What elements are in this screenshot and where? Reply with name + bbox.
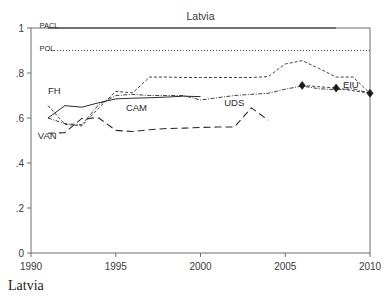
y-tick-label: .4 bbox=[16, 158, 25, 169]
series-marker-eiu bbox=[333, 84, 339, 92]
plot-frame bbox=[31, 28, 370, 253]
x-tick-label: 2000 bbox=[189, 261, 212, 272]
x-tick-label: 1990 bbox=[20, 261, 43, 272]
series-marker-eiu bbox=[367, 89, 373, 97]
chart-title: Latvia bbox=[186, 10, 214, 22]
figure-caption: Latvia bbox=[8, 278, 44, 294]
series-label-pacl: PACL bbox=[39, 21, 58, 30]
x-tick-label: 2010 bbox=[359, 261, 382, 272]
series-line-cam bbox=[48, 61, 370, 126]
y-tick-label: 1 bbox=[18, 23, 24, 34]
series-marker-eiu bbox=[299, 81, 305, 89]
y-tick-label: .6 bbox=[16, 113, 25, 124]
series-line-van bbox=[48, 108, 268, 133]
y-tick-label: 0 bbox=[18, 248, 24, 259]
series-line-fh bbox=[48, 96, 201, 118]
series-line-uds bbox=[48, 86, 370, 125]
chart-figure: Latvia0.2.4.6.8119901995200020052010PACL… bbox=[0, 0, 384, 304]
y-tick-label: .2 bbox=[16, 203, 25, 214]
line-chart-svg: Latvia0.2.4.6.8119901995200020052010PACL… bbox=[0, 0, 384, 276]
series-label-van: VAN bbox=[38, 130, 57, 141]
series-label-eiu: EIU bbox=[343, 79, 359, 90]
series-label-cam: CAM bbox=[126, 102, 147, 113]
y-tick-label: .8 bbox=[16, 68, 25, 79]
x-tick-label: 2005 bbox=[274, 261, 297, 272]
series-label-fh: FH bbox=[48, 85, 61, 96]
x-tick-label: 1995 bbox=[105, 261, 128, 272]
series-label-pol: POL bbox=[39, 44, 54, 53]
series-label-uds: UDS bbox=[224, 97, 244, 108]
